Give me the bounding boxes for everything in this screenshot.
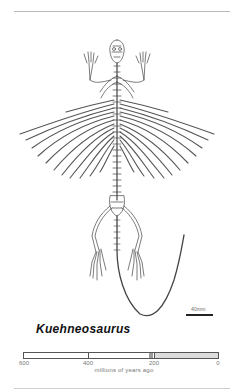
- timeline-tick-400: [88, 352, 89, 359]
- tick-label-200: 200: [149, 360, 159, 366]
- tick-label-0: 0: [216, 360, 219, 366]
- forelimb-right: [123, 52, 150, 82]
- tick-label-600: 600: [19, 360, 29, 366]
- hindlimb-right: [122, 206, 144, 280]
- gliding-ribs-right: [120, 100, 214, 178]
- scale-bar-label: 40mm: [191, 306, 206, 312]
- tail-icon: [114, 216, 184, 316]
- timeline-shaded-range: [155, 353, 218, 358]
- hindlimb-left: [90, 206, 112, 280]
- tick-label-400: 400: [83, 360, 93, 366]
- timeline-tick-200: [154, 352, 155, 359]
- scale-bar: [186, 314, 213, 316]
- geologic-timeline-bar: [23, 352, 219, 359]
- forelimb-left: [84, 52, 111, 82]
- skeleton-illustration: [0, 0, 234, 330]
- skull-icon: [110, 40, 124, 63]
- species-title: Kuehneosaurus: [36, 322, 131, 336]
- timeline-species-marker: [149, 353, 153, 358]
- gliding-ribs-left: [20, 100, 114, 178]
- timeline-axis-label: millions of years ago: [0, 367, 234, 373]
